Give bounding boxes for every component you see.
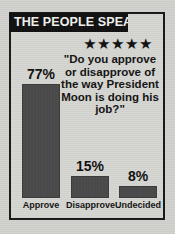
bar-disapprove bbox=[71, 176, 109, 198]
bar-approve bbox=[22, 84, 60, 198]
bar-label-undecided: Undecided bbox=[112, 200, 164, 210]
bar-label-disapprove: Disapprove bbox=[63, 200, 118, 210]
bar-chart: 77% Approve 15% Disapprove 8% Undecided bbox=[0, 0, 175, 234]
bar-value-undecided: 8% bbox=[112, 169, 164, 183]
bar-value-disapprove: 15% bbox=[63, 159, 117, 173]
bar-undecided bbox=[119, 186, 157, 198]
bar-value-approve: 77% bbox=[14, 67, 68, 81]
poll-graphic: THE PEOPLE SPEAK ★★★★★ "Do you approve o… bbox=[0, 0, 175, 234]
bar-label-approve: Approve bbox=[16, 200, 66, 210]
